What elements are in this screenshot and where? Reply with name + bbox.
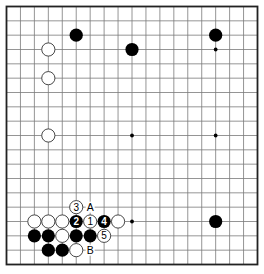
move-number-label: 5 [101, 230, 107, 241]
white-stone [56, 215, 69, 228]
black-stone [70, 229, 83, 242]
white-stone [42, 72, 55, 85]
point-letter-a: A [87, 201, 94, 213]
black-stone [42, 229, 55, 242]
white-stone [42, 129, 55, 142]
move-number-label: 4 [101, 216, 107, 227]
black-stone-icon [125, 43, 138, 56]
white-stone [42, 215, 55, 228]
black-stone: 2 [70, 215, 83, 228]
black-stone [209, 215, 222, 228]
black-stone [84, 229, 97, 242]
star-point-icon [214, 134, 218, 138]
white-stone-icon [42, 43, 55, 56]
white-stone: 1 [84, 215, 97, 228]
black-stone-icon [70, 229, 83, 242]
black-stone-icon [70, 29, 83, 42]
white-stone: 3 [70, 201, 83, 214]
black-stone-icon [209, 215, 222, 228]
white-stone-icon [56, 215, 69, 228]
star-point-icon [130, 220, 134, 224]
black-stone-icon [56, 244, 69, 257]
star-point-icon [130, 134, 134, 138]
white-stone [70, 244, 83, 257]
white-stone-icon [42, 72, 55, 85]
star-point-icon [214, 48, 218, 52]
white-stone [42, 43, 55, 56]
white-stone [111, 215, 124, 228]
white-stone [28, 215, 41, 228]
black-stone [42, 244, 55, 257]
white-stone-icon [42, 129, 55, 142]
white-stone-icon [111, 215, 124, 228]
move-number-label: 1 [87, 216, 93, 227]
move-number-label: 3 [73, 202, 79, 213]
black-stone [70, 29, 83, 42]
white-stone-icon [56, 229, 69, 242]
black-stone-icon [42, 229, 55, 242]
point-letter-b: B [87, 244, 94, 256]
white-stone-icon [42, 215, 55, 228]
black-stone-icon [28, 229, 41, 242]
black-stone: 4 [98, 215, 111, 228]
white-stone-icon [28, 215, 41, 228]
black-stone-icon [42, 244, 55, 257]
black-stone [56, 244, 69, 257]
black-stone [125, 43, 138, 56]
black-stone [28, 229, 41, 242]
white-stone: 5 [98, 229, 111, 242]
black-stone [209, 29, 222, 42]
move-number-label: 2 [73, 216, 79, 227]
black-stone-icon [84, 229, 97, 242]
black-stone-icon [209, 29, 222, 42]
white-stone-icon [70, 244, 83, 257]
white-stone [56, 229, 69, 242]
go-board: 21435 AB [0, 0, 264, 274]
